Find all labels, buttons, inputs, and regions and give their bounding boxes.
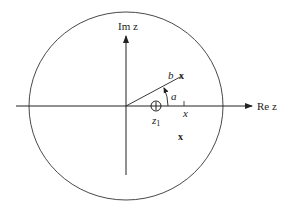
label-z1: z1 bbox=[151, 114, 160, 128]
real-axis-label: Re z bbox=[257, 100, 277, 112]
pole-upper-marker: x bbox=[179, 70, 184, 81]
angle-arc bbox=[164, 88, 168, 106]
label-a: a bbox=[171, 90, 177, 102]
complex-plane-diagram: Re z Im z b x a z1 x x bbox=[0, 0, 287, 209]
imag-axis-label: Im z bbox=[118, 20, 138, 32]
label-x: x bbox=[182, 107, 188, 119]
label-b: b bbox=[168, 69, 174, 81]
pole-lower-marker: x bbox=[178, 131, 183, 142]
